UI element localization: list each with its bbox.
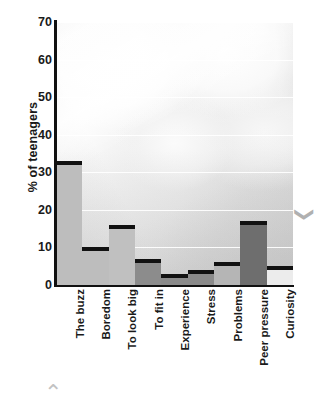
x-tick-label: To look big — [126, 289, 138, 349]
gridline — [56, 22, 293, 23]
gridline — [56, 135, 293, 136]
bar — [161, 274, 187, 285]
x-tick-label: Experience — [179, 289, 191, 350]
x-tick-label: Peer pressure — [258, 289, 270, 366]
gridline — [56, 97, 293, 98]
y-axis-tick-labels: 010203040506070 — [26, 0, 52, 403]
y-tick-label: 60 — [26, 53, 52, 67]
bar — [267, 266, 293, 285]
bar — [240, 221, 266, 285]
x-tick-label: To fit in — [153, 289, 165, 330]
y-tick-label: 40 — [26, 128, 52, 142]
bar — [82, 247, 108, 285]
bar — [188, 270, 214, 285]
chevron-right-icon: ❯ — [297, 207, 315, 223]
x-tick-label: Stress — [205, 289, 217, 324]
bar-chart-figure: % of teenagers 010203040506070 The buzzB… — [0, 0, 315, 403]
gridline — [56, 172, 293, 173]
x-axis-line — [54, 285, 294, 288]
y-tick-label: 10 — [26, 240, 52, 254]
plot-area — [56, 22, 293, 285]
bar — [135, 259, 161, 285]
x-axis-tick-labels: The buzzBoredomTo look bigTo fit inExper… — [56, 289, 293, 389]
gridline — [56, 60, 293, 61]
y-tick-label: 20 — [26, 203, 52, 217]
bar — [109, 225, 135, 285]
y-axis-line — [54, 20, 57, 287]
x-tick-label: Boredom — [100, 289, 112, 339]
x-tick-label: The buzz — [74, 289, 86, 338]
y-tick-label: 0 — [26, 278, 52, 292]
x-tick-label: Problems — [232, 289, 244, 341]
chevron-up-icon: ⌃ — [44, 382, 62, 403]
bar — [56, 161, 82, 285]
bar — [214, 262, 240, 285]
y-tick-label: 30 — [26, 165, 52, 179]
x-tick-label: Curiosity — [284, 289, 296, 339]
y-tick-label: 50 — [26, 90, 52, 104]
gridline — [56, 210, 293, 211]
y-tick-label: 70 — [26, 15, 52, 29]
